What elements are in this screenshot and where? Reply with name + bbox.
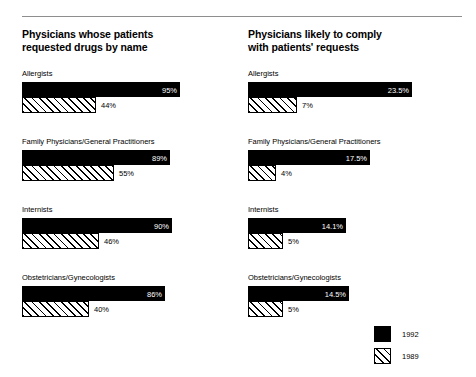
legend-item-1992: 1992 <box>374 325 419 343</box>
bar-value-label: 46% <box>104 237 119 246</box>
bar-row-1989: 5% <box>248 233 448 249</box>
chart-panel-left: Physicians whose patients requested drug… <box>22 28 222 341</box>
chart-panel-right: Physicians likely to comply with patient… <box>248 28 448 341</box>
bar-1992: 89% <box>22 150 170 165</box>
bar-row-1992: 14.5% <box>248 286 448 301</box>
bar-value-label: 7% <box>302 101 313 110</box>
bar-1992: 95% <box>22 82 180 97</box>
bar-row-1989: 55% <box>22 165 222 181</box>
hatch-pattern-icon <box>249 166 275 180</box>
hatch-pattern-icon <box>249 98 296 112</box>
bar-group: Obstetricians/Gynecologists 86% 40% <box>22 273 222 341</box>
bar-value-label: 14.1% <box>322 221 343 230</box>
bar-row-1992: 17.5% <box>248 150 448 165</box>
bar-1992: 17.5% <box>248 150 370 165</box>
category-label: Family Physicians/General Practitioners <box>22 137 222 146</box>
legend-label: 1989 <box>402 352 419 361</box>
bar-group: Family Physicians/General Practitioners … <box>22 137 222 205</box>
bar-group: Allergists 95% 44% <box>22 69 222 137</box>
hatch-pattern-icon <box>23 98 95 112</box>
bar-1989 <box>22 165 114 181</box>
bar-value-label: 5% <box>288 237 299 246</box>
panel-left-groups: Allergists 95% 44% Family Physicians/Gen… <box>22 69 222 341</box>
hatch-pattern-icon <box>23 302 88 316</box>
category-label: Allergists <box>248 69 448 78</box>
chart-legend: 1992 1989 <box>374 325 419 369</box>
panel-left-title: Physicians whose patients requested drug… <box>22 28 222 54</box>
bar-1989 <box>248 301 283 317</box>
bar-row-1992: 23.5% <box>248 82 448 97</box>
bar-1989 <box>248 233 283 249</box>
bar-row-1989: 44% <box>22 97 222 113</box>
bar-1992: 23.5% <box>248 82 412 97</box>
bar-group: Internists 90% 46% <box>22 205 222 273</box>
bar-1989 <box>248 97 297 113</box>
bar-value-label: 40% <box>94 305 109 314</box>
header-rule <box>22 16 462 17</box>
bar-value-label: 89% <box>152 153 167 162</box>
bar-value-label: 23.5% <box>388 85 409 94</box>
bar-row-1992: 89% <box>22 150 222 165</box>
bar-value-label: 44% <box>101 101 116 110</box>
hatch-pattern-icon <box>23 166 113 180</box>
bar-1992: 14.1% <box>248 218 346 233</box>
legend-item-1989: 1989 <box>374 347 419 365</box>
bar-row-1989: 46% <box>22 233 222 249</box>
bar-1989 <box>22 301 89 317</box>
bar-group: Internists 14.1% 5% <box>248 205 448 273</box>
bar-row-1992: 86% <box>22 286 222 301</box>
legend-label: 1992 <box>402 330 419 339</box>
bar-row-1992: 95% <box>22 82 222 97</box>
bar-1989 <box>248 165 276 181</box>
panel-right-groups: Allergists 23.5% 7% Family Physicians/Ge… <box>248 69 448 341</box>
bar-1989 <box>22 97 96 113</box>
hatch-pattern-icon <box>23 234 98 248</box>
legend-swatch-hatch-icon <box>374 348 391 364</box>
bar-row-1989: 4% <box>248 165 448 181</box>
bar-group: Family Physicians/General Practitioners … <box>248 137 448 205</box>
hatch-pattern-icon <box>375 349 390 363</box>
category-label: Allergists <box>22 69 222 78</box>
bar-1992: 90% <box>22 218 172 233</box>
bar-value-label: 17.5% <box>346 153 367 162</box>
bar-value-label: 14.5% <box>325 289 346 298</box>
bar-1992: 14.5% <box>248 286 349 301</box>
bar-value-label: 4% <box>281 169 292 178</box>
chart-figure: Physicians whose patients requested drug… <box>0 0 476 377</box>
hatch-pattern-icon <box>249 302 282 316</box>
hatch-pattern-icon <box>249 234 282 248</box>
bar-value-label: 5% <box>288 305 299 314</box>
panel-right-title: Physicians likely to comply with patient… <box>248 28 448 54</box>
bar-row-1989: 5% <box>248 301 448 317</box>
category-label: Internists <box>248 205 448 214</box>
bar-value-label: 55% <box>119 169 134 178</box>
bar-row-1992: 90% <box>22 218 222 233</box>
bar-value-label: 86% <box>147 289 162 298</box>
bar-value-label: 90% <box>154 221 169 230</box>
bar-value-label: 95% <box>162 85 177 94</box>
category-label: Obstetricians/Gynecologists <box>248 273 448 282</box>
bar-row-1992: 14.1% <box>248 218 448 233</box>
category-label: Internists <box>22 205 222 214</box>
bar-1989 <box>22 233 99 249</box>
category-label: Obstetricians/Gynecologists <box>22 273 222 282</box>
category-label: Family Physicians/General Practitioners <box>248 137 448 146</box>
bar-group: Allergists 23.5% 7% <box>248 69 448 137</box>
bar-row-1989: 7% <box>248 97 448 113</box>
legend-swatch-solid-icon <box>374 326 391 342</box>
bar-row-1989: 40% <box>22 301 222 317</box>
bar-1992: 86% <box>22 286 165 301</box>
